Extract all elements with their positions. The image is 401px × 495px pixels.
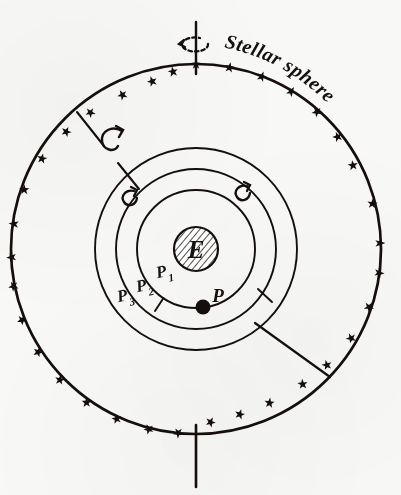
star-marker-icon	[146, 75, 159, 88]
planet-dot-icon	[196, 300, 211, 315]
star-marker-icon	[234, 409, 247, 422]
axis-spin-arrow-icon	[179, 37, 208, 51]
sphere-p1-label-sub: 1	[167, 271, 175, 284]
p3-to-stellar-connector	[255, 323, 330, 377]
sphere-p3-label: P 3	[114, 284, 136, 310]
star-marker-icon	[83, 105, 97, 119]
star-marker-icon	[263, 397, 276, 410]
sphere-p1-label: P 1	[153, 260, 175, 286]
star-marker-icon	[296, 378, 310, 392]
hook-rotation-arrow-icon	[102, 126, 123, 150]
diagram-canvas: E P P 1 P 2 P 3 Stellar sphere	[0, 0, 401, 495]
sphere-p2-label: P 2	[133, 274, 155, 300]
hook-rotation-arrow-icon	[236, 182, 250, 200]
star-marker-icon	[116, 88, 129, 101]
earth-label: E	[187, 236, 205, 263]
celestial-spheres-figure: E P P 1 P 2 P 3 Stellar sphere	[0, 0, 401, 495]
radial-connector-left	[155, 298, 164, 311]
planet-label: P	[211, 285, 224, 306]
star-marker-icon	[59, 124, 73, 138]
star-marker-icon	[205, 417, 217, 429]
star-marker-icon	[31, 345, 45, 359]
star-marker-icon	[255, 70, 268, 83]
